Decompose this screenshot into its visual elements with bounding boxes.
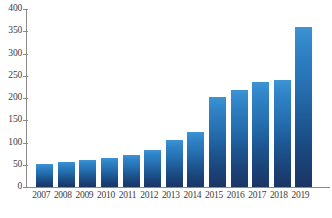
x-tick-label-2016: 2016 <box>224 189 248 202</box>
x-tick-label-2013: 2013 <box>159 189 183 202</box>
bar-slot <box>120 9 142 187</box>
y-tick-label: 0 <box>0 182 22 192</box>
x-tick-label-2015: 2015 <box>202 189 226 202</box>
x-axis-labels: 2007200820092010201120122013201420152016… <box>27 189 330 207</box>
bar-slot <box>99 9 121 187</box>
bar-slot <box>207 9 229 187</box>
y-tick-label: 250 <box>0 71 22 81</box>
bar-2016[interactable] <box>231 90 248 187</box>
x-tick-label-2018: 2018 <box>267 189 291 202</box>
bar-2017[interactable] <box>252 82 269 187</box>
x-tick-label-2012: 2012 <box>137 189 161 202</box>
bar-slot <box>272 9 294 187</box>
bar-2018[interactable] <box>274 80 291 187</box>
bar-slot <box>250 9 272 187</box>
bar-slot <box>56 9 78 187</box>
x-tick-label-2014: 2014 <box>180 189 204 202</box>
x-tick-label-2019: 2019 <box>288 189 312 202</box>
y-tick-label: 150 <box>0 115 22 125</box>
bar-slot <box>34 9 56 187</box>
bar-2013[interactable] <box>166 140 183 187</box>
y-tick-label: 350 <box>0 26 22 36</box>
x-tick-label-2007: 2007 <box>29 189 53 202</box>
plot-area <box>27 9 330 187</box>
bar-2011[interactable] <box>123 155 140 187</box>
y-tick-label: 300 <box>0 49 22 59</box>
x-tick-label-2017: 2017 <box>245 189 269 202</box>
bar-2009[interactable] <box>79 160 96 187</box>
bar-slot <box>185 9 207 187</box>
x-tick-label-2011: 2011 <box>116 189 140 202</box>
bar-2010[interactable] <box>101 158 118 187</box>
y-tick-label: 200 <box>0 93 22 103</box>
y-tick-label: 400 <box>0 4 22 14</box>
bar-2007[interactable] <box>36 164 53 187</box>
bar-slot <box>164 9 186 187</box>
bar-2014[interactable] <box>187 132 204 187</box>
bar-2008[interactable] <box>58 162 75 187</box>
bar-2015[interactable] <box>209 97 226 187</box>
x-tick-label-2010: 2010 <box>94 189 118 202</box>
y-tick-label: 50 <box>0 160 22 170</box>
bar-2019[interactable] <box>295 27 312 187</box>
bar-slot <box>77 9 99 187</box>
x-tick-label-2008: 2008 <box>51 189 75 202</box>
bar-2012[interactable] <box>144 150 161 187</box>
bar-slot <box>228 9 250 187</box>
bar-chart: 050100150200250300350400 200720082009201… <box>0 0 332 218</box>
y-tick-mark <box>23 187 28 188</box>
x-tick-label-2009: 2009 <box>72 189 96 202</box>
x-axis-line <box>26 187 330 188</box>
bar-slot <box>293 9 315 187</box>
y-tick-label: 100 <box>0 138 22 148</box>
bar-slot <box>142 9 164 187</box>
